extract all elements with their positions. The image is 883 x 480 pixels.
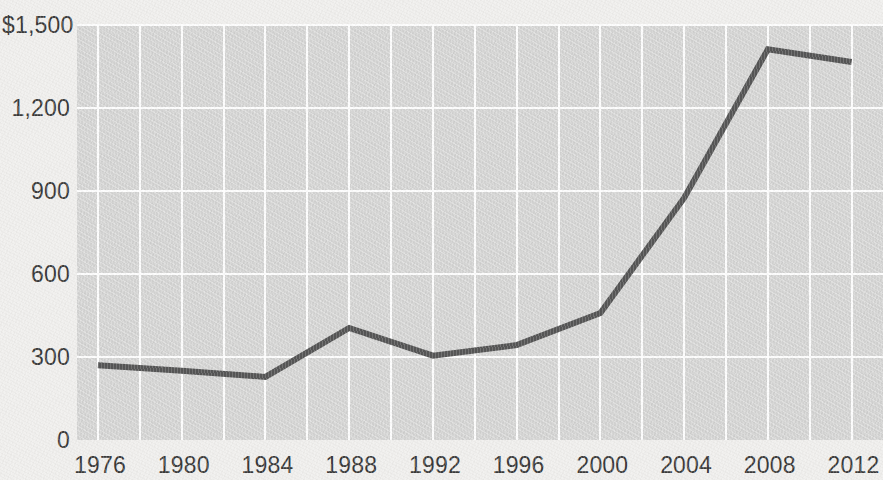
data-series-line [77,25,883,440]
x-tick-label-1988: 1988 [325,454,377,477]
x-axis: 1976198019841988199219962000200420082012 [0,448,883,480]
x-tick-label-1992: 1992 [409,454,461,477]
y-tick-label-1200: 1,200 [2,97,70,120]
x-tick-label-2000: 2000 [576,454,628,477]
y-axis: 03006009001,200$1,500 [0,0,70,480]
x-tick-label-1996: 1996 [493,454,545,477]
x-tick-label-1980: 1980 [158,454,210,477]
x-tick-label-2008: 2008 [744,454,796,477]
x-tick-label-1984: 1984 [241,454,293,477]
x-tick-label-2004: 2004 [660,454,712,477]
x-tick-label-2012: 2012 [828,454,880,477]
x-tick-label-1976: 1976 [74,454,126,477]
series-polyline [98,49,852,377]
plot-area [77,25,883,440]
chart-root: 03006009001,200$1,500 197619801984198819… [0,0,883,480]
y-tick-label-1500: $1,500 [2,14,70,37]
y-tick-label-900: 900 [2,180,70,203]
y-tick-label-600: 600 [2,263,70,286]
y-tick-label-300: 300 [2,346,70,369]
